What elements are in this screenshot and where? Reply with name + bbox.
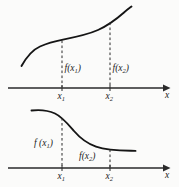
axis-label-x-bottom: x <box>164 170 170 180</box>
increasing-curve <box>22 7 132 67</box>
bottom-panel: f (x1) f(x2) x1 x2 x <box>8 110 171 182</box>
tick-label-x1-top: x1 <box>57 91 65 102</box>
function-diagram-figure: f(x1) f(x2) x1 x2 x <box>0 0 179 187</box>
axis-label-x-top: x <box>164 90 170 100</box>
diagram-canvas: f(x1) f(x2) x1 x2 x <box>0 0 179 187</box>
label-f-x2-top: f(x2) <box>113 63 129 74</box>
label-f-x1-top: f(x1) <box>65 63 81 74</box>
tick-label-x2-top: x2 <box>105 91 114 102</box>
label-f-x1-bottom: f (x1) <box>34 138 53 149</box>
tick-label-x2-bottom: x2 <box>105 171 114 182</box>
top-panel: f(x1) f(x2) x1 x2 x <box>8 7 171 103</box>
label-f-x2-bottom: f(x2) <box>79 151 95 162</box>
tick-label-x1-bottom: x1 <box>57 171 65 182</box>
